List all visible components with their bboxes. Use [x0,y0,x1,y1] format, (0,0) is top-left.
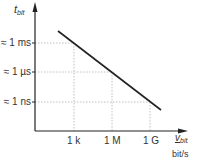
x-axis-label: vbit [175,133,187,143]
x-tick-label-1M: 1 M [104,136,121,146]
y-tick-label-1ns: ≈ 1 ns [4,97,31,107]
x-tick-label-1k: 1 k [67,136,80,146]
y-axis-arrow-icon [33,2,38,12]
grid [35,43,150,131]
chart-canvas [0,0,198,164]
x-axis-unit: bit/s [172,150,189,159]
axes [35,6,182,131]
x-tick-label-1G: 1 G [143,136,159,146]
y-tick-label-1us: ≈ 1 µs [4,67,31,77]
y-axis-label: tbit [14,4,24,15]
y-tick-label-1ms: ≈ 1 ms [1,38,31,48]
data-line [58,31,161,110]
